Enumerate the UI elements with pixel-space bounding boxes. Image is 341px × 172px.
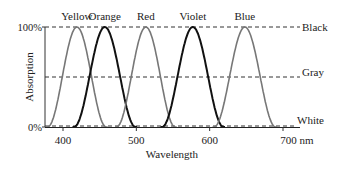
- x-ticks: 400500600700 nm: [42, 27, 314, 146]
- peak-label-red: Red: [137, 10, 155, 22]
- ref-label-black: Black: [302, 21, 328, 33]
- peak-labels: YellowOrangeRedVioletBlue: [61, 10, 255, 22]
- x-tick-label: 600: [201, 134, 218, 146]
- ref-label-white: White: [297, 114, 324, 126]
- peak-label-violet: Violet: [179, 10, 206, 22]
- ref-label-gray: Gray: [302, 66, 324, 78]
- x-tick-label: 700 nm: [280, 134, 314, 146]
- x-axis-label: Wavelength: [146, 148, 199, 160]
- x-tick-label: 500: [128, 134, 145, 146]
- y-axis-label: Absorption: [23, 52, 35, 102]
- absorption-chart: 400500600700 nm YellowOrangeRedVioletBlu…: [0, 0, 341, 172]
- y-tick-0: 0%: [28, 122, 42, 133]
- y-tick-100: 100%: [18, 22, 43, 33]
- reference-lines: [45, 27, 300, 126]
- x-tick-label: 400: [55, 134, 72, 146]
- peak-label-blue: Blue: [234, 10, 255, 22]
- peak-label-orange: Orange: [89, 10, 121, 22]
